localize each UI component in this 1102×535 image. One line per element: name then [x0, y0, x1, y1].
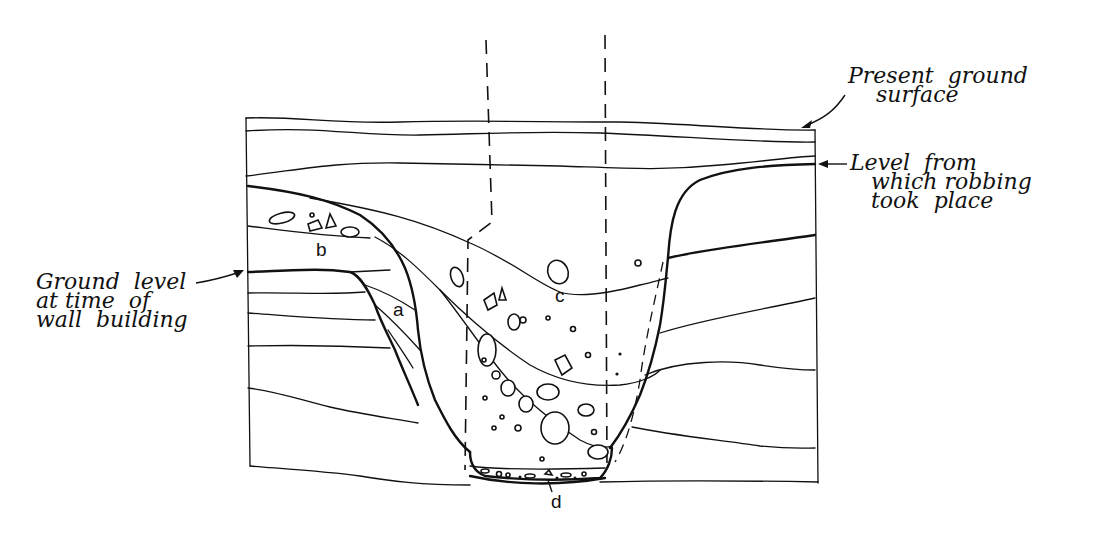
stone — [499, 288, 506, 300]
stone — [484, 293, 497, 310]
stone — [592, 430, 597, 435]
left-stratum-4 — [248, 388, 418, 423]
stone — [546, 316, 550, 320]
stone — [571, 327, 576, 332]
dashed-wall-line-right — [605, 35, 607, 470]
stone — [555, 355, 572, 375]
stone — [326, 214, 336, 228]
left-stratum-2 — [248, 313, 375, 320]
rubble — [481, 469, 489, 473]
bottom-left-line — [250, 466, 470, 485]
stone — [519, 396, 533, 412]
right-stratum-1 — [668, 235, 815, 258]
fill-line-upper — [310, 198, 668, 295]
rubble — [497, 472, 502, 477]
layer-label-a: a — [393, 300, 404, 319]
stone — [448, 266, 466, 289]
label-present-ground-surface: Present ground surface — [848, 66, 1028, 104]
dashed-wall-line-left — [465, 40, 492, 470]
layer-label-c: c — [555, 286, 565, 305]
section-left-edge — [246, 118, 250, 466]
rubble — [561, 473, 571, 477]
left-stratum-1 — [248, 292, 365, 293]
layer-d-top — [470, 466, 605, 469]
stone — [537, 384, 559, 400]
right-stratum-2 — [660, 298, 815, 333]
stone — [483, 396, 487, 400]
stone — [578, 404, 594, 416]
right-stratum-4 — [632, 427, 815, 448]
stone — [520, 317, 526, 323]
rubble — [545, 470, 552, 475]
rubble — [506, 473, 510, 477]
dot — [615, 372, 618, 375]
right-stratum-3 — [645, 362, 815, 375]
stone — [540, 457, 544, 461]
stratum-line-3 — [246, 156, 815, 176]
stone — [501, 380, 515, 396]
stone — [635, 260, 641, 266]
stone — [268, 210, 296, 226]
stone — [508, 314, 520, 330]
stone — [586, 353, 591, 358]
stone — [478, 334, 496, 366]
stone — [588, 445, 608, 459]
robbing-level-line — [610, 164, 815, 448]
arrowhead-present-surface — [801, 120, 812, 128]
stone — [341, 227, 359, 237]
stone — [482, 358, 486, 362]
arrow-ground-level — [196, 272, 240, 283]
rubble — [519, 476, 522, 479]
ground-level-continuation — [350, 270, 390, 272]
section-right-edge — [815, 130, 818, 483]
stone — [492, 426, 496, 430]
stone — [541, 412, 569, 444]
rubble — [525, 474, 535, 478]
left-stratum-3 — [248, 345, 390, 348]
stone — [308, 220, 322, 231]
left-upper-trench-edge — [248, 186, 470, 452]
rubble — [574, 477, 577, 480]
label-robbing-level: Level from which robbing took place — [850, 153, 1032, 210]
rubble — [556, 477, 559, 480]
layer-label-d: d — [551, 492, 562, 511]
stone — [310, 213, 314, 217]
rubble — [582, 472, 586, 476]
fill-line-middle — [440, 290, 660, 385]
stone — [492, 371, 500, 379]
present-surface-line — [246, 118, 815, 130]
label-ground-level-wall-building: Ground level at time of wall building — [36, 272, 188, 329]
dot — [618, 352, 621, 355]
stratum-line-2 — [246, 130, 815, 143]
stone — [500, 415, 504, 419]
bottom-right-line — [600, 481, 818, 482]
stone-c — [544, 257, 572, 287]
stone — [515, 425, 521, 431]
layer-label-b: b — [316, 240, 327, 259]
arrowhead-robbing-level — [818, 160, 828, 168]
